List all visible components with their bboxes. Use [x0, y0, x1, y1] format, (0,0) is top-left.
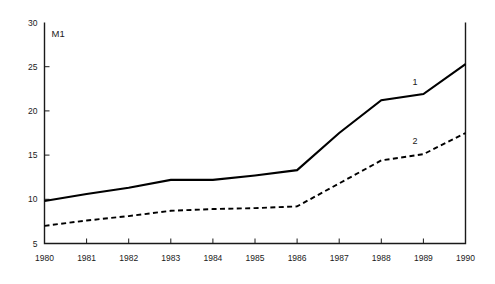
- line-chart: 51015202530 1980198119821983198419851986…: [0, 0, 495, 284]
- plot-frame: [45, 23, 466, 244]
- x-tick-label: 1983: [161, 253, 180, 263]
- series-lines: [45, 64, 466, 226]
- plot-title: M1: [52, 28, 65, 39]
- x-tick-label: 1988: [372, 253, 391, 263]
- x-axis-ticks: [87, 239, 424, 244]
- x-tick-label: 1982: [119, 253, 138, 263]
- x-tick-label: 1990: [456, 253, 475, 263]
- y-axis-ticks: [45, 67, 50, 200]
- x-tick-label: 1989: [414, 253, 433, 263]
- series-line-1: [45, 64, 466, 201]
- x-tick-label: 1985: [246, 253, 265, 263]
- x-axis-tick-labels: 1980198119821983198419851986198719881989…: [35, 253, 475, 263]
- x-tick-label: 1986: [288, 253, 307, 263]
- x-tick-label: 1984: [203, 253, 222, 263]
- x-tick-label: 1987: [330, 253, 349, 263]
- y-tick-label: 10: [28, 194, 38, 204]
- x-tick-label: 1980: [35, 253, 54, 263]
- y-tick-label: 30: [28, 18, 38, 28]
- x-tick-label: 1981: [77, 253, 96, 263]
- series-annotation-2: 2: [412, 136, 417, 146]
- y-tick-label: 25: [28, 62, 38, 72]
- y-tick-label: 20: [28, 106, 38, 116]
- series-annotation-1: 1: [412, 77, 417, 87]
- y-axis-tick-labels: 51015202530: [28, 18, 38, 249]
- chart-container: 51015202530 1980198119821983198419851986…: [0, 0, 495, 284]
- axis-frame: [45, 23, 466, 244]
- series-line-2: [45, 133, 466, 226]
- y-tick-label: 15: [28, 150, 38, 160]
- y-tick-label: 5: [33, 239, 38, 249]
- series-annotations: 12: [412, 77, 417, 145]
